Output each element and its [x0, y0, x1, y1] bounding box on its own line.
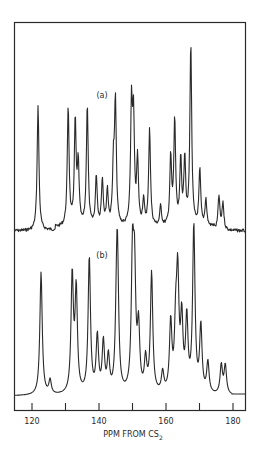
nmr-spectrum-figure: 120140160180 (a) (b) PPM FROM CS2 [0, 0, 259, 454]
x-tick-label: 120 [24, 417, 39, 426]
x-axis-title-main: PPM FROM CS [103, 430, 159, 439]
spectrum-a-trace [15, 48, 245, 232]
x-axis-ticks [32, 403, 233, 411]
spectrum-b-trace [15, 224, 245, 396]
spectrum-a-label: (a) [96, 91, 107, 100]
x-axis-title: PPM FROM CS2 [103, 430, 163, 441]
x-axis-title-subscript: 2 [159, 434, 163, 441]
x-axis-tick-labels: 120140160180 [24, 417, 240, 426]
x-tick-label: 140 [91, 417, 106, 426]
x-tick-label: 180 [225, 417, 240, 426]
spectrum-b-label: (b) [96, 251, 107, 260]
x-tick-label: 160 [158, 417, 173, 426]
